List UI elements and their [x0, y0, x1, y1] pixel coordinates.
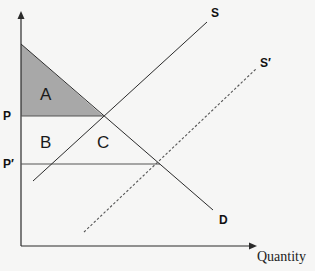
supply-shifted-curve	[84, 68, 257, 232]
region-label-c: C	[97, 134, 109, 151]
x-axis-title: Quantity	[257, 250, 306, 264]
price-label-p: P	[3, 110, 11, 122]
supply-label: S	[211, 7, 219, 19]
demand-label: D	[219, 214, 228, 226]
region-label-b: B	[40, 134, 51, 151]
supply-demand-diagram: S S′ D P P′ A B C Quantity	[0, 0, 315, 271]
x-axis-arrow-icon	[249, 243, 257, 250]
demand-curve	[21, 44, 213, 210]
y-axis-arrow-icon	[18, 11, 25, 19]
supply-shifted-label: S′	[260, 57, 271, 69]
price-label-p-prime: P′	[3, 158, 14, 170]
region-label-a: A	[40, 86, 51, 103]
